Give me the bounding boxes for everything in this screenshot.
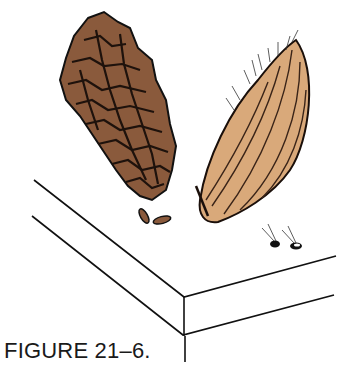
board-top-edge (34, 180, 336, 297)
pine-cone (60, 12, 176, 200)
board-bottom-edge (32, 216, 334, 335)
figure-caption: FIGURE 21–6. (4, 338, 151, 364)
seed-pod (196, 30, 309, 222)
figure-illustration (0, 0, 358, 385)
board (32, 180, 336, 362)
pod-seeds (262, 224, 302, 250)
cone-seeds (137, 207, 172, 225)
